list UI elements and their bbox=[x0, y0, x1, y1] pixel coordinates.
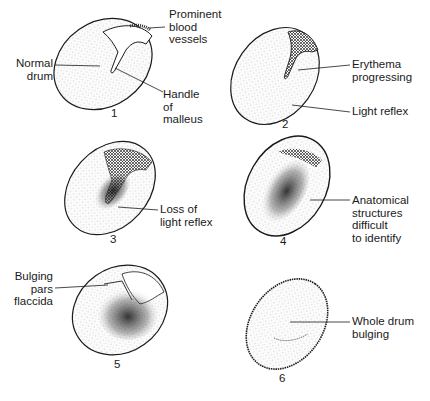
panel-number-6: 6 bbox=[279, 372, 285, 384]
panel-number-5: 5 bbox=[114, 358, 120, 370]
panel-number-2: 2 bbox=[282, 118, 288, 130]
label-normal-drum: Normal drum bbox=[6, 57, 53, 82]
label-loss-of-light-reflex: Loss of light reflex bbox=[160, 203, 212, 228]
panel-number-4: 4 bbox=[280, 235, 286, 247]
eardrum-panel-4 bbox=[227, 121, 350, 252]
eardrum-panel-6 bbox=[229, 263, 350, 385]
panel-number-1: 1 bbox=[111, 107, 117, 119]
label-prominent-blood-vessels: Prominent blood vessels bbox=[169, 8, 221, 46]
panel-number-3: 3 bbox=[110, 233, 116, 245]
label-handle-of-malleus: Handle of malleus bbox=[163, 88, 203, 126]
eardrum-panel-5 bbox=[55, 247, 185, 373]
label-whole-drum-bulging: Whole drum bulging bbox=[352, 315, 414, 340]
eardrum-panel-1 bbox=[36, 0, 169, 128]
label-anatomical-structures: Anatomical structures difficult to ident… bbox=[352, 194, 409, 244]
label-bulging-pars-flaccida: Bulging pars flaccida bbox=[6, 270, 53, 308]
label-light-reflex: Light reflex bbox=[352, 105, 408, 118]
label-erythema-progressing: Erythema progressing bbox=[352, 58, 412, 83]
